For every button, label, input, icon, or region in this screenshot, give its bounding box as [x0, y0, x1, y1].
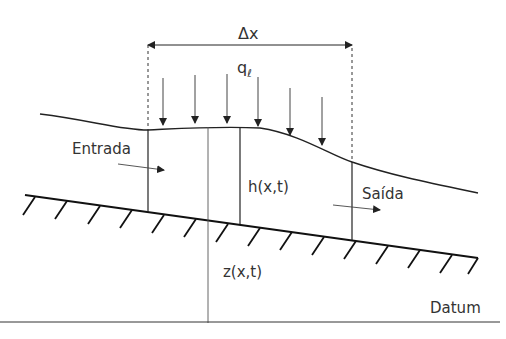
- lateral-inflow-symbol: q: [237, 58, 247, 77]
- lateral-inflow-arrows: [163, 74, 322, 145]
- lateral-inflow-label: qℓ: [237, 58, 252, 80]
- outflow-label: Saída: [362, 185, 404, 203]
- channel-bed: [25, 195, 478, 258]
- outflow-arrow: [333, 205, 380, 210]
- depth-label: h(x,t): [248, 178, 289, 196]
- inflow-label: Entrada: [72, 140, 131, 158]
- lateral-inflow-subscript: ℓ: [247, 67, 252, 80]
- open-channel-diagram: [0, 0, 506, 339]
- dx-label: Δx: [238, 24, 258, 43]
- datum-label: Datum: [430, 299, 481, 317]
- inflow-arrow: [118, 164, 164, 170]
- bed-elevation-label: z(x,t): [223, 263, 262, 281]
